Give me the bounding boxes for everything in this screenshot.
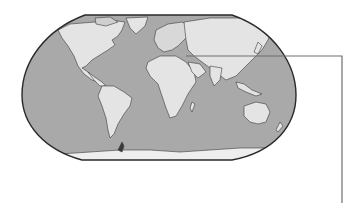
figure	[0, 0, 361, 203]
world-map	[0, 0, 361, 203]
